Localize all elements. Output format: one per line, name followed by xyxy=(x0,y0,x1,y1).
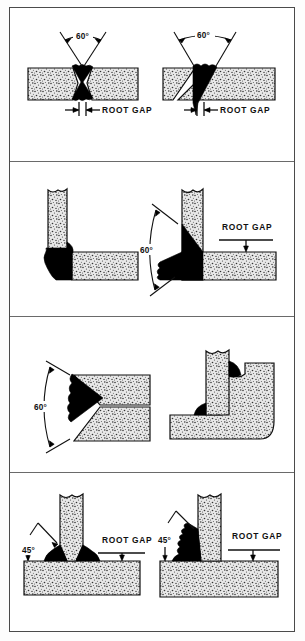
angle-label: 45° xyxy=(158,536,171,545)
root-gap-label: ROOT GAP xyxy=(102,105,152,115)
weld-bead xyxy=(172,523,201,561)
angle-arm xyxy=(30,523,38,535)
panel-tee-joints: 45° ROOT GAP 45° xyxy=(10,473,294,631)
inner-weld xyxy=(67,242,73,253)
left-plate xyxy=(28,68,78,100)
fig-bevelled-corner-joint: 60° ROOT GAP xyxy=(139,189,276,296)
fig-horizontal-single-v-butt-joint: 60° xyxy=(33,361,150,453)
root-gap-label: ROOT GAP xyxy=(102,535,152,545)
angle-tick-arrowhead xyxy=(26,556,30,561)
root-gap-arrowhead-left xyxy=(73,108,79,113)
lower-plate xyxy=(74,407,150,441)
angle-label: 60° xyxy=(140,246,153,255)
angle-leader-line xyxy=(38,523,57,543)
root-gap-arrowhead-right xyxy=(86,108,92,113)
angle-label: 60° xyxy=(197,31,210,40)
angle-label: 45° xyxy=(22,546,35,555)
root-gap-arrowhead xyxy=(251,555,256,561)
weld-bead-right xyxy=(229,361,241,377)
base-plate xyxy=(24,561,140,595)
angle-tick-arrowhead xyxy=(163,555,167,561)
angle-arrowhead-upper xyxy=(49,367,54,373)
horizontal-plate xyxy=(72,252,138,280)
panel-horizontal-butt-and-lap-joints: 60° xyxy=(10,317,294,472)
welding-joints-figure: 60° ROOT GAP xyxy=(0,0,305,641)
angle-arm xyxy=(168,511,176,523)
weld-bead-left xyxy=(194,403,206,415)
vertical-plate xyxy=(198,494,221,561)
base-plate xyxy=(160,561,278,597)
root-gap-arrowhead-right xyxy=(204,108,210,113)
fig-double-bevel-tee-joint: 45° ROOT GAP xyxy=(22,494,152,595)
fig-single-bevel-tee-joint: 45° ROOT GAP xyxy=(158,494,282,597)
root-gap-label: ROOT GAP xyxy=(232,531,282,541)
root-gap-label: ROOT GAP xyxy=(220,105,270,115)
angle-arrowhead-upper xyxy=(156,210,161,216)
right-plate xyxy=(87,68,138,100)
root-gap-arrowhead xyxy=(244,246,249,252)
fig-double-v-butt-joint: 60° ROOT GAP xyxy=(28,30,152,116)
fig-single-v-butt-joint: 60° ROOT GAP xyxy=(163,29,275,116)
angle-label: 60° xyxy=(76,32,89,41)
vertical-plate xyxy=(206,350,229,415)
root-gap-label: ROOT GAP xyxy=(222,222,272,232)
angle-arrowhead-lower xyxy=(49,441,54,447)
fig-corner-fillet-joint xyxy=(44,189,138,280)
root-gap-arrowhead xyxy=(120,555,125,561)
vertical-plate xyxy=(60,494,83,561)
panel-butt-joints: 60° ROOT GAP xyxy=(10,10,294,161)
right-plate xyxy=(178,68,275,100)
angle-label: 60° xyxy=(34,403,47,412)
panel-corner-joints: 60° ROOT GAP xyxy=(10,162,294,316)
fig-plate-in-bent-corner-joint xyxy=(170,350,274,439)
